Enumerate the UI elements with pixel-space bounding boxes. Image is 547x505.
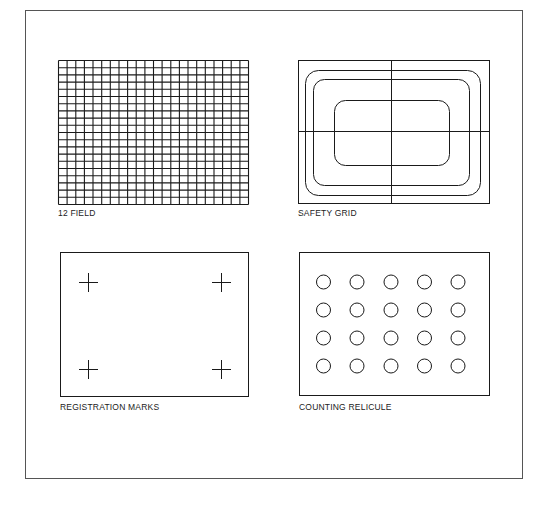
counting-reticule-panel [300, 253, 490, 396]
reticule-diagrams [0, 0, 547, 505]
counting-circle [451, 303, 465, 317]
counting-circle [451, 331, 465, 345]
registration-mark [212, 360, 231, 379]
counting-circle [451, 275, 465, 289]
safety-grid [299, 61, 490, 204]
counting-circle [350, 303, 364, 317]
counting-circle [317, 331, 331, 345]
safety-rect-outer [306, 71, 481, 196]
counting-circle [418, 359, 432, 373]
counting-circle [451, 359, 465, 373]
label-registration-marks: REGISTRATION MARKS [60, 402, 159, 412]
counting-circle [418, 331, 432, 345]
label-twelve-field: 12 FIELD [58, 208, 96, 218]
counting-circle [317, 359, 331, 373]
counting-circle [350, 331, 364, 345]
counting-circle [317, 303, 331, 317]
counting-circle [418, 275, 432, 289]
registration-mark [212, 273, 231, 292]
registration-mark [79, 273, 98, 292]
counting-circle [384, 331, 398, 345]
counting-circle [350, 275, 364, 289]
label-counting-reticule: COUNTING RELICULE [299, 402, 392, 412]
counting-circles [317, 275, 466, 373]
counting-circle [384, 359, 398, 373]
counting-box [300, 253, 490, 396]
label-safety-grid: SAFETY GRID [298, 208, 357, 218]
counting-circle [418, 303, 432, 317]
registration-mark [79, 360, 98, 379]
counting-circle [317, 275, 331, 289]
counting-circle [350, 359, 364, 373]
counting-circle [384, 303, 398, 317]
counting-circle [384, 275, 398, 289]
registration-marks-panel [61, 253, 249, 397]
twelve-field-grid [59, 61, 249, 205]
